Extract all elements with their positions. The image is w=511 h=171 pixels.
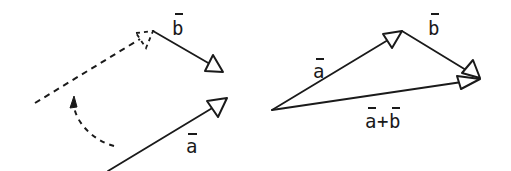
svg-text:+: + [377, 110, 388, 132]
label-a-right: a [313, 59, 324, 82]
label-a-left: a [186, 134, 197, 157]
arrowhead-icon [383, 31, 402, 48]
svg-text:a: a [186, 135, 197, 157]
vector-addition-diagram: b a a b [0, 0, 511, 171]
vector-a-right [272, 31, 402, 110]
svg-text:b: b [172, 17, 183, 39]
arrowhead-icon [462, 60, 480, 78]
label-sum: a + b [365, 108, 400, 132]
arrow-up-icon [70, 96, 77, 108]
left-panel: b a [35, 14, 227, 171]
svg-text:b: b [428, 17, 439, 39]
curved-rotation-arrow [70, 96, 114, 146]
arrowhead-icon [205, 55, 223, 72]
right-panel: a b a + b [272, 14, 480, 132]
vector-b-left [153, 31, 223, 72]
svg-text:a: a [313, 60, 324, 82]
svg-text:b: b [389, 110, 400, 132]
label-b-left: b [172, 14, 183, 39]
svg-text:a: a [365, 110, 376, 132]
arrowhead-icon [207, 98, 227, 117]
label-b-right: b [428, 14, 439, 39]
vector-sum [272, 76, 480, 110]
vector-a-left [108, 98, 227, 171]
vector-b-right [402, 31, 480, 78]
dashed-vector-a [35, 31, 153, 103]
arrowhead-icon [457, 76, 480, 89]
